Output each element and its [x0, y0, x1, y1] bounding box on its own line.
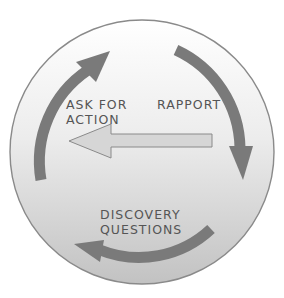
label-ask-line1: ASK FOR [66, 97, 127, 112]
label-ask-line2: ACTION [66, 112, 127, 127]
label-discovery-line2: QUESTIONS [100, 222, 182, 237]
label-rapport: RAPPORT [157, 97, 221, 112]
label-discovery-questions: DISCOVERY QUESTIONS [100, 207, 182, 237]
label-discovery-line1: DISCOVERY [100, 207, 182, 222]
sales-cycle-diagram [0, 0, 284, 298]
label-ask-for-action: ASK FOR ACTION [66, 97, 127, 127]
